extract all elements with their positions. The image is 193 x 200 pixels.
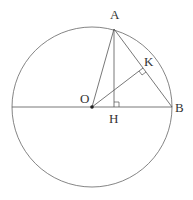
label-K: K	[144, 54, 154, 69]
geometry-diagram: A B O H K	[0, 0, 193, 200]
label-H: H	[109, 111, 118, 126]
label-B: B	[175, 100, 184, 115]
label-O: O	[80, 91, 89, 106]
label-A: A	[110, 7, 120, 22]
segment-OK	[92, 68, 143, 107]
right-angle-mark-K	[139, 71, 146, 75]
center-point-O	[90, 105, 94, 109]
right-angle-mark-H	[114, 102, 119, 107]
diagram-canvas: A B O H K	[0, 0, 193, 200]
segment-OA	[92, 29, 114, 107]
